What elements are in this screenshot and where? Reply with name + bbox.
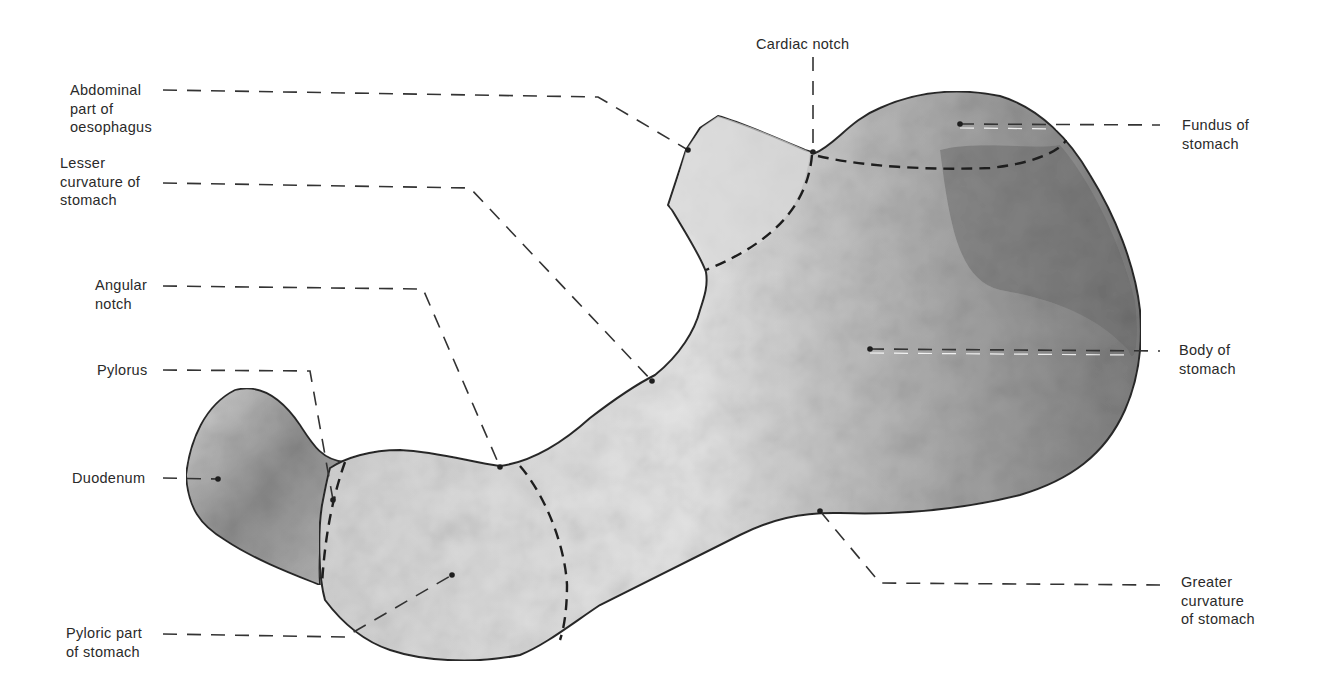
label-pyloric-part: Pyloric part of stomach bbox=[66, 624, 142, 661]
label-lesser-curvature: Lesser curvature of stomach bbox=[60, 154, 140, 210]
stomach-diagram bbox=[0, 0, 1331, 687]
label-cardiac-notch: Cardiac notch bbox=[756, 35, 849, 54]
label-greater-curvature: Greater curvature of stomach bbox=[1181, 573, 1255, 629]
label-body: Body of stomach bbox=[1179, 341, 1236, 378]
label-pylorus: Pylorus bbox=[97, 361, 147, 380]
label-abdominal-oesophagus: Abdominal part of oesophagus bbox=[70, 81, 152, 137]
label-angular-notch: Angular notch bbox=[95, 276, 147, 313]
label-fundus: Fundus of stomach bbox=[1182, 116, 1249, 153]
label-duodenum: Duodenum bbox=[72, 469, 145, 488]
